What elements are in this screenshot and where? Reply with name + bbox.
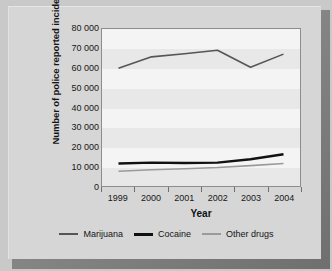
legend-item-other-drugs[interactable]: Other drugs: [202, 229, 274, 239]
x-axis-tick: [101, 187, 102, 192]
series-line-marijuana: [119, 50, 284, 68]
legend-line-swatch: [202, 233, 221, 235]
x-axis-tick-label: 2000: [134, 193, 168, 204]
x-axis-title: Year: [101, 208, 301, 219]
y-axis-tick-label: 60 000: [51, 64, 99, 73]
legend-line-swatch: [59, 233, 78, 235]
y-axis-tick-label: 40 000: [51, 104, 99, 113]
x-axis-tick: [301, 187, 302, 192]
legend-label: Cocaine: [158, 229, 191, 239]
y-axis-tick-label: 0: [51, 183, 99, 192]
x-axis-tick: [201, 187, 202, 192]
figure-root: Number of police reported incidents 010 …: [0, 0, 332, 271]
series-lines: [102, 29, 300, 186]
plot-area: [101, 28, 301, 187]
series-line-other-drugs: [119, 163, 284, 171]
x-axis-tick-label: 2002: [201, 193, 235, 204]
x-axis-tick-label: 1999: [101, 193, 135, 204]
legend-line-swatch: [134, 233, 153, 236]
chart-legend: MarijuanaCocaineOther drugs: [19, 229, 314, 239]
legend-item-marijuana[interactable]: Marijuana: [59, 229, 123, 239]
y-axis-tick-labels: 010 00020 00030 00040 00050 00060 00070 …: [51, 22, 99, 182]
y-axis-tick-label: 30 000: [51, 123, 99, 132]
x-axis-tick-label: 2004: [267, 193, 301, 204]
chart-card: Number of police reported incidents 010 …: [8, 6, 321, 259]
x-axis-tick: [234, 187, 235, 192]
x-axis-tick: [268, 187, 269, 192]
y-axis-tick-label: 50 000: [51, 84, 99, 93]
series-line-cocaine: [119, 154, 284, 163]
x-axis-tick-labels: 199920002001200220032004: [101, 193, 301, 207]
legend-label: Marijuana: [83, 229, 123, 239]
x-axis-tick: [168, 187, 169, 192]
legend-item-cocaine[interactable]: Cocaine: [134, 229, 191, 239]
x-axis-tick-label: 2003: [234, 193, 268, 204]
y-axis-tick-label: 20 000: [51, 143, 99, 152]
y-axis-tick-label: 10 000: [51, 163, 99, 172]
y-axis-tick-label: 80 000: [51, 24, 99, 33]
x-axis-tick: [134, 187, 135, 192]
x-axis-tick-label: 2001: [167, 193, 201, 204]
x-axis-ticks: [101, 187, 301, 192]
legend-label: Other drugs: [226, 229, 274, 239]
y-axis-tick-label: 70 000: [51, 44, 99, 53]
